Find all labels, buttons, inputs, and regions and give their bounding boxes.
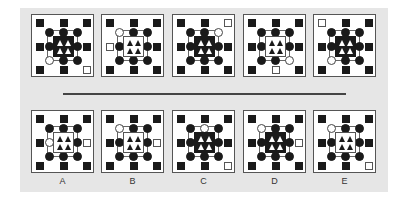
triangle-icon — [198, 48, 204, 54]
option-figure-a[interactable] — [31, 110, 94, 173]
square-icon — [106, 115, 114, 123]
circle-icon — [355, 28, 364, 37]
question-figure-1 — [31, 14, 94, 77]
square-icon — [248, 139, 256, 147]
square-icon — [272, 115, 280, 123]
square-icon — [342, 19, 350, 27]
square-icon — [272, 19, 280, 27]
square-icon — [60, 115, 68, 123]
triangle-icon — [65, 144, 71, 150]
square-icon — [177, 19, 185, 27]
triangle-icon — [127, 48, 133, 54]
triangle-icon — [198, 136, 204, 142]
circle-icon — [214, 124, 223, 133]
square-icon — [248, 66, 256, 74]
triangle-icon — [65, 40, 71, 46]
square-icon — [177, 162, 185, 170]
triangle-icon — [127, 40, 133, 46]
circle-icon — [143, 42, 152, 51]
option-figure-e[interactable] — [313, 110, 376, 173]
triangle-icon — [135, 144, 141, 150]
circle-icon — [214, 152, 223, 161]
triangle-icon — [198, 144, 204, 150]
square-icon — [130, 115, 138, 123]
square-icon — [153, 43, 161, 51]
circle-icon — [257, 152, 266, 161]
square-icon — [130, 162, 138, 170]
square-icon — [130, 66, 138, 74]
square-icon — [224, 162, 232, 170]
square-icon — [177, 115, 185, 123]
circle-icon — [214, 28, 223, 37]
circle-icon — [143, 138, 152, 147]
triangle-icon — [277, 40, 283, 46]
circle-icon — [73, 42, 82, 51]
square-icon — [153, 66, 161, 74]
circle-icon — [327, 152, 336, 161]
square-icon — [153, 19, 161, 27]
square-icon — [224, 139, 232, 147]
option-label-c: C — [172, 176, 235, 186]
triangle-icon — [339, 40, 345, 46]
triangle-icon — [206, 48, 212, 54]
center-square — [53, 36, 74, 57]
triangle-icon — [277, 136, 283, 142]
square-icon — [342, 162, 350, 170]
square-icon — [224, 115, 232, 123]
square-icon — [318, 115, 326, 123]
square-icon — [177, 66, 185, 74]
square-icon — [224, 19, 232, 27]
triangle-icon — [57, 136, 63, 142]
divider-line — [63, 93, 346, 95]
square-icon — [36, 162, 44, 170]
square-icon — [248, 19, 256, 27]
option-figure-b[interactable] — [101, 110, 164, 173]
center-square — [53, 132, 74, 153]
circle-icon — [341, 152, 350, 161]
option-label-b: B — [101, 176, 164, 186]
square-icon — [83, 139, 91, 147]
square-icon — [36, 139, 44, 147]
center-square — [123, 132, 144, 153]
circle-icon — [355, 138, 364, 147]
option-label-a: A — [31, 176, 94, 186]
circle-icon — [285, 42, 294, 51]
square-icon — [130, 19, 138, 27]
square-icon — [60, 66, 68, 74]
square-icon — [295, 19, 303, 27]
triangle-icon — [135, 48, 141, 54]
triangle-icon — [339, 144, 345, 150]
circle-icon — [355, 124, 364, 133]
square-icon — [342, 115, 350, 123]
option-figure-d[interactable] — [243, 110, 306, 173]
option-figure-c[interactable] — [172, 110, 235, 173]
circle-icon — [341, 56, 350, 65]
triangle-icon — [347, 136, 353, 142]
square-icon — [106, 19, 114, 27]
center-square — [194, 36, 215, 57]
circle-icon — [73, 56, 82, 65]
triangle-icon — [198, 40, 204, 46]
circle-icon — [115, 56, 124, 65]
circle-icon — [143, 56, 152, 65]
square-icon — [201, 19, 209, 27]
circle-icon — [45, 56, 54, 65]
square-icon — [153, 162, 161, 170]
triangle-icon — [339, 136, 345, 142]
square-icon — [272, 66, 280, 74]
circle-icon — [285, 152, 294, 161]
question-figure-3 — [172, 14, 235, 77]
square-icon — [106, 66, 114, 74]
triangle-icon — [135, 40, 141, 46]
square-icon — [36, 19, 44, 27]
square-icon — [248, 43, 256, 51]
circle-icon — [45, 152, 54, 161]
triangle-icon — [269, 40, 275, 46]
square-icon — [36, 115, 44, 123]
circle-icon — [257, 56, 266, 65]
circle-icon — [129, 152, 138, 161]
triangle-icon — [347, 40, 353, 46]
circle-icon — [73, 138, 82, 147]
square-icon — [224, 43, 232, 51]
triangle-icon — [57, 144, 63, 150]
